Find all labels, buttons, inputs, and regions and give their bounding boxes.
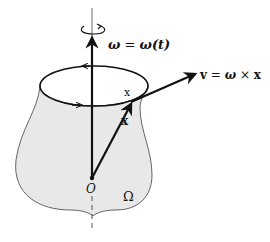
velocity-vector [131,74,195,102]
rotating-body-diagram: ω = ω(t) v = ω × x x x O Ω [0,0,270,242]
point-label: x [124,86,131,99]
origin-label: O [86,182,96,196]
origin-point [90,176,94,180]
rim-ellipse [40,66,148,106]
omega-label: ω = ω(t) [108,37,170,52]
velocity-label: v = ω × x [199,68,262,82]
region-label: Ω [123,189,134,204]
position-label: x [121,114,129,128]
rotation-icon [81,26,105,34]
